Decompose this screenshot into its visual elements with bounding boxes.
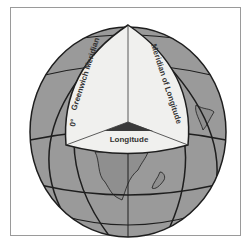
prime-meridian-degree-label: 0° [68,118,78,127]
globe-diagram: Longitude 0° Greenwich Meridian Meridian… [0,0,251,242]
longitude-label: Longitude [110,135,149,144]
